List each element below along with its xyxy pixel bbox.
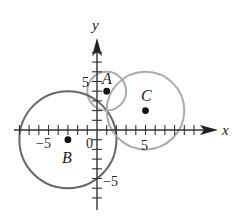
y-tick-label-neg5: −5 [103, 174, 118, 189]
point-label-b: B [62, 149, 72, 166]
coordinate-plane-diagram: x y 0 −5 5 5 −5 A B C [0, 0, 241, 221]
y-axis-label: y [90, 17, 99, 33]
y-tick-label-5: 5 [82, 75, 89, 90]
point-c [142, 107, 149, 114]
origin-label: 0 [86, 136, 93, 151]
diagram-canvas: x y 0 −5 5 5 −5 A B C [0, 0, 241, 221]
y-axis [92, 38, 102, 210]
point-label-c: C [141, 87, 152, 104]
x-axis-label: x [221, 122, 229, 138]
point-b [65, 136, 72, 143]
point-a [103, 88, 110, 95]
x-tick-label-neg5: −5 [36, 136, 51, 151]
point-label-a: A [101, 70, 112, 87]
x-axis [14, 125, 218, 135]
x-tick-label-5: 5 [141, 138, 148, 153]
